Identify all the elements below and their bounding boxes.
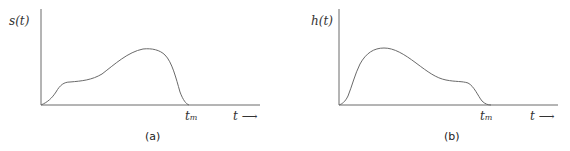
diagram-canvas (0, 0, 570, 151)
panel-a-xlabel: t ⟶ (233, 109, 257, 123)
arrow-right-icon: ⟶ (539, 110, 555, 123)
tm-sub: m (190, 113, 198, 122)
panel-b-ylabel: h(t) (311, 14, 333, 28)
arrow-right-icon: ⟶ (242, 110, 258, 123)
panel-a-ylabel: s(t) (9, 14, 29, 28)
panel-b-xlabel: t ⟶ (530, 109, 554, 123)
panel-a-caption: (a) (145, 130, 160, 143)
panel-b-caption: (b) (444, 130, 460, 143)
tm-sub: m (485, 113, 493, 122)
x-t: t (233, 109, 238, 123)
panel-a-axes (41, 9, 260, 105)
panel-a-tm-label: tm (185, 109, 197, 123)
panel-b-tm-label: tm (480, 109, 492, 123)
panel-a-curve (41, 49, 189, 105)
panel-b-axes (339, 9, 558, 105)
x-t: t (530, 109, 535, 123)
panel-b-curve (339, 48, 491, 105)
